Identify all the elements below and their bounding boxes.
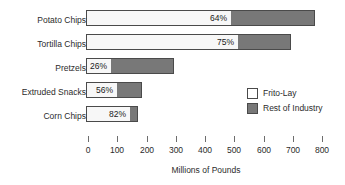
x-axis-tick bbox=[88, 136, 89, 142]
legend-label-rest-of-industry: Rest of Industry bbox=[263, 104, 323, 113]
bar-extruded-snacks: 56% bbox=[86, 82, 142, 98]
x-axis-tick bbox=[322, 136, 323, 142]
x-axis-tick bbox=[264, 136, 265, 142]
x-axis-tick bbox=[147, 136, 148, 142]
bar-potato-chips: 64% bbox=[86, 10, 315, 26]
data-label-extruded-snacks: 56% bbox=[96, 86, 117, 95]
bar-segment-rest-of-industry bbox=[130, 106, 138, 122]
stacked-bar-chart: Potato Chips Tortilla Chips Pretzels Ext… bbox=[0, 0, 345, 185]
bar-segment-frito-lay: 26% bbox=[86, 58, 111, 74]
bar-segment-rest-of-industry bbox=[111, 58, 174, 74]
category-label-corn-chips: Corn Chips bbox=[0, 112, 86, 121]
bar-corn-chips: 82% bbox=[86, 106, 138, 122]
bar-pretzels: 26% bbox=[86, 58, 174, 74]
bar-segment-frito-lay: 75% bbox=[86, 34, 238, 50]
legend-swatch-icon-rest-of-industry bbox=[247, 103, 258, 114]
legend-label-frito-lay: Frito-Lay bbox=[263, 89, 297, 98]
bar-segment-frito-lay: 64% bbox=[86, 10, 231, 26]
bar-segment-frito-lay: 56% bbox=[86, 82, 117, 98]
legend-item-frito-lay: Frito-Lay bbox=[247, 86, 323, 101]
legend-swatch-icon-frito-lay bbox=[247, 88, 258, 99]
bar-segment-rest-of-industry bbox=[238, 34, 291, 50]
x-axis-tick bbox=[117, 136, 118, 142]
data-label-tortilla-chips: 75% bbox=[217, 38, 238, 47]
x-axis-title: Millions of Pounds bbox=[86, 166, 326, 175]
data-label-corn-chips: 82% bbox=[109, 110, 130, 119]
category-label-extruded-snacks: Extruded Snacks bbox=[0, 88, 86, 97]
category-label-tortilla-chips: Tortilla Chips bbox=[0, 40, 86, 49]
bar-tortilla-chips: 75% bbox=[86, 34, 291, 50]
x-axis-tick-label: 800 bbox=[302, 146, 342, 155]
x-axis-tick bbox=[293, 136, 294, 142]
bar-segment-rest-of-industry bbox=[117, 82, 142, 98]
legend-item-rest-of-industry: Rest of Industry bbox=[247, 101, 323, 116]
legend: Frito-Lay Rest of Industry bbox=[247, 86, 323, 116]
x-axis-tick bbox=[234, 136, 235, 142]
bar-segment-frito-lay: 82% bbox=[86, 106, 130, 122]
category-label-potato-chips: Potato Chips bbox=[0, 16, 86, 25]
bar-segment-rest-of-industry bbox=[231, 10, 315, 26]
x-axis-tick bbox=[205, 136, 206, 142]
data-label-pretzels: 26% bbox=[90, 62, 111, 71]
x-axis-tick bbox=[176, 136, 177, 142]
category-label-pretzels: Pretzels bbox=[0, 64, 86, 73]
data-label-potato-chips: 64% bbox=[210, 14, 231, 23]
